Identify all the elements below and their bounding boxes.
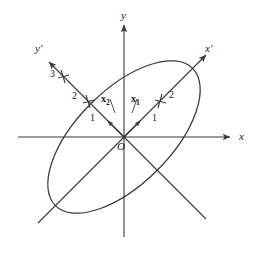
tick-label-y-prime-2: 2: [72, 91, 77, 101]
origin-point: [123, 136, 126, 139]
origin-label: O: [117, 141, 125, 152]
x2-leader-line: [110, 99, 115, 113]
vector-label-x1-subscript: 1: [136, 98, 140, 107]
figure-canvas: [0, 0, 256, 258]
tick-label-y-prime-1: 1: [90, 113, 95, 123]
y-axis-label: y: [121, 10, 126, 21]
vector-label-x2: x2: [101, 94, 110, 107]
tick-label-y-prime-3: 3: [50, 69, 55, 79]
vector-label-x1: x1: [131, 94, 140, 107]
x-axis-label: x: [239, 131, 244, 142]
x-prime-axis-label: x′: [205, 43, 212, 54]
y-prime-axis-label: y′: [35, 43, 42, 54]
ellipse-principal-axes-figure: x y x′ y′ O 1 2 1 2 3 x1 x2: [0, 0, 256, 258]
tick-label-x-prime-1: 1: [152, 113, 157, 123]
unit-vector-x1-arrow: [124, 121, 140, 137]
tick-label-x-prime-2: 2: [169, 90, 174, 100]
vector-label-x2-subscript: 2: [106, 98, 110, 107]
unit-vector-x2-arrow: [108, 121, 124, 137]
